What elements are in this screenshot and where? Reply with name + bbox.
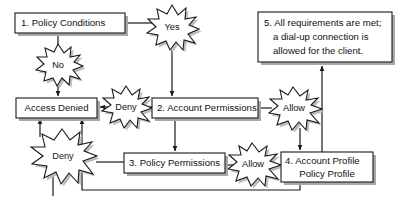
allow-burst-account-label: Allow	[283, 103, 305, 113]
allow-burst-account: Allow	[269, 87, 325, 133]
all-requirements-met-box: 5. All requirements are met; a dial-up c…	[258, 12, 395, 65]
policy-conditions-box-label: 1. Policy Conditions	[21, 17, 105, 28]
all-requirements-met-line-3: allowed for the client.	[273, 45, 363, 56]
account-permissions-box-label: 2. Account Permissions	[157, 102, 257, 113]
account-profile-box-line-1: 4. Account Profile	[285, 155, 360, 166]
deny-burst-policy-label: Deny	[52, 151, 74, 161]
no-burst: No	[36, 44, 86, 89]
allow-burst-policy: Allow	[228, 143, 284, 189]
yes-burst-label: Yes	[165, 22, 180, 32]
flowchart-canvas: Yes No Deny Deny Allow	[0, 0, 410, 201]
account-profile-policy-profile-box: 4. Account Profile Policy Profile	[281, 152, 376, 185]
deny-burst-account-label: Deny	[115, 102, 137, 112]
yes-burst: Yes	[147, 5, 202, 53]
access-denied-box: Access Denied	[16, 98, 100, 121]
policy-permissions-box: 3. Policy Permissions	[124, 153, 228, 176]
deny-burst-account: Deny	[102, 86, 155, 131]
policy-conditions-box: 1. Policy Conditions	[15, 13, 128, 36]
policy-permissions-box-label: 3. Policy Permissions	[129, 157, 220, 168]
flowchart-diagram: Yes No Deny Deny Allow	[0, 0, 410, 201]
all-requirements-met-line-1: 5. All requirements are met;	[264, 17, 381, 28]
account-profile-box-line-2: Policy Profile	[299, 168, 354, 179]
allow-burst-policy-label: Allow	[242, 159, 264, 169]
access-denied-box-label: Access Denied	[25, 102, 89, 113]
no-burst-label: No	[52, 60, 64, 70]
deny-burst-policy: Deny	[31, 129, 100, 187]
account-permissions-box: 2. Account Permissions	[152, 98, 261, 121]
all-requirements-met-line-2: a dial-up connection is	[273, 31, 369, 42]
